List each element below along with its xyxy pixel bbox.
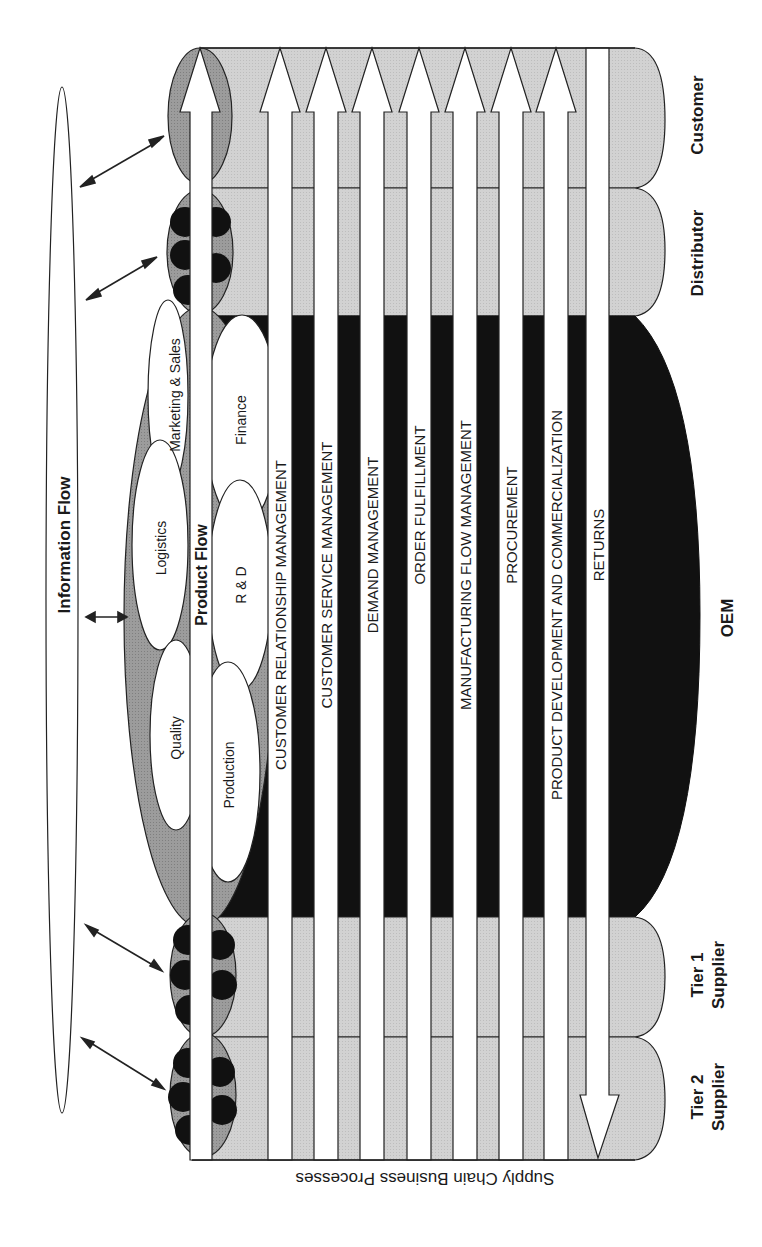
stage-label-oem: OEM (718, 599, 737, 638)
process-label: CUSTOMER SERVICE MANAGEMENT (318, 442, 335, 709)
function-label: Marketing & Sales (167, 338, 183, 452)
information-flow-label: Information Flow (55, 476, 74, 614)
process-label: PRODUCT DEVELOPMENT AND COMMERCIALIZATIO… (548, 410, 565, 800)
diagram-title: Supply Chain Business Processes (296, 1169, 555, 1188)
process-label: MANUFACTURING FLOW MANAGEMENT (457, 420, 474, 710)
stage-label-tier1-line2: Supplier (709, 941, 728, 1009)
stage-label-tier2-line2: Supplier (709, 1063, 728, 1131)
function-label: Logistics (153, 521, 169, 575)
function-label: R & D (233, 566, 249, 603)
process-label: DEMAND MANAGEMENT (364, 457, 381, 634)
info-arrow-tier1-icon (86, 925, 162, 971)
process-label: PROCUREMENT (503, 466, 520, 584)
stage-label-distributor: Distributor (688, 209, 707, 296)
stage-label-tier1-line1: Tier 1 (688, 952, 707, 997)
product-flow-label: Product Flow (193, 524, 210, 626)
stage-label-customer: Customer (688, 75, 707, 155)
function-label: Quality (168, 716, 184, 760)
info-arrow-tier2-icon (82, 1038, 164, 1089)
stage-label-tier2-line1: Tier 2 (688, 1074, 707, 1119)
supply-chain-diagram: Information Flow (0, 0, 762, 1247)
information-flow: Information Flow (46, 87, 78, 1113)
function-label: Finance (233, 395, 249, 445)
process-label: ORDER FULFILLMENT (411, 425, 428, 584)
process-label: CUSTOMER RELATIONSHIP MANAGEMENT (272, 460, 289, 770)
info-arrow-oem-icon (86, 612, 127, 622)
info-arrow-customer-icon (80, 136, 164, 187)
info-arrow-distributor-icon (86, 257, 157, 300)
process-label: RETURNS (590, 509, 607, 582)
function-label: Production (221, 742, 237, 809)
